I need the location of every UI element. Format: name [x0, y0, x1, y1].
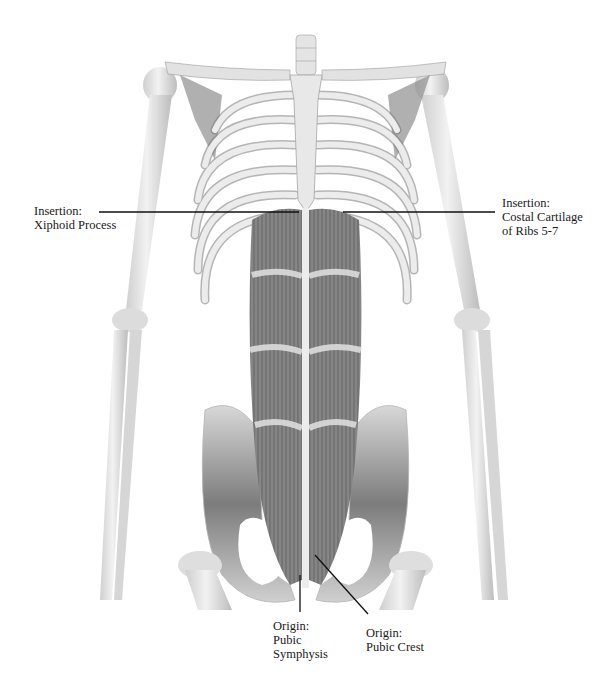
label-line: Costal Cartilage — [502, 210, 583, 224]
label-line: Pubic — [273, 633, 328, 647]
label-line: Insertion: — [502, 196, 583, 210]
label-origin-pubic-crest: Origin: Pubic Crest — [366, 626, 424, 654]
label-origin-pubic-symphysis: Origin: Pubic Symphysis — [273, 619, 328, 661]
left-arm — [100, 67, 177, 600]
label-line: Symphysis — [273, 647, 328, 661]
label-line: Origin: — [366, 626, 424, 640]
label-line: Xiphoid Process — [34, 218, 116, 232]
anatomy-illustration — [0, 0, 611, 694]
linea-alba — [302, 208, 309, 588]
label-line: Pubic Crest — [366, 640, 424, 654]
right-arm — [415, 67, 508, 600]
label-line: of Ribs 5-7 — [502, 224, 583, 238]
cervical-spine — [296, 35, 316, 75]
label-insertion-xiphoid-process: Insertion: Xiphoid Process — [34, 204, 116, 232]
label-insertion-costal-cartilage: Insertion: Costal Cartilage of Ribs 5-7 — [502, 196, 583, 238]
label-line: Origin: — [273, 619, 328, 633]
label-line: Insertion: — [34, 204, 116, 218]
